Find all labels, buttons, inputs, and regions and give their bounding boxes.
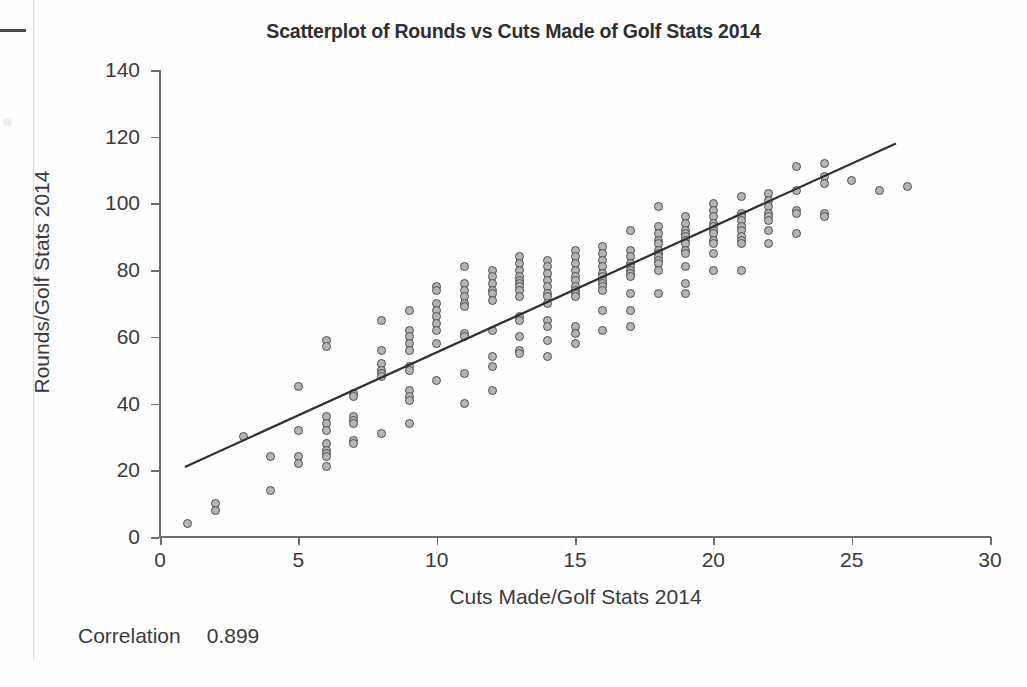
data-point bbox=[875, 186, 884, 195]
data-point bbox=[432, 339, 441, 348]
data-point bbox=[543, 299, 552, 308]
x-tick-label: 10 bbox=[425, 548, 448, 572]
y-tick bbox=[151, 270, 159, 272]
data-point bbox=[681, 262, 690, 271]
data-point bbox=[349, 439, 358, 448]
data-point bbox=[432, 326, 441, 335]
data-point bbox=[266, 452, 275, 461]
x-tick bbox=[437, 537, 439, 545]
data-point bbox=[322, 342, 331, 351]
x-tick-label: 0 bbox=[154, 548, 166, 572]
data-point bbox=[405, 346, 414, 355]
y-tick-label: 100 bbox=[0, 191, 140, 215]
y-tick bbox=[151, 337, 159, 339]
x-tick bbox=[852, 537, 854, 545]
data-point bbox=[543, 336, 552, 345]
data-point bbox=[515, 292, 524, 301]
x-tick-label: 15 bbox=[563, 548, 586, 572]
data-point bbox=[515, 349, 524, 358]
data-point bbox=[792, 229, 801, 238]
data-point bbox=[488, 352, 497, 361]
y-tick-label: 0 bbox=[0, 525, 140, 549]
data-point bbox=[626, 226, 635, 235]
x-tick-label: 5 bbox=[292, 548, 304, 572]
data-point bbox=[571, 292, 580, 301]
data-point bbox=[571, 339, 580, 348]
data-point bbox=[377, 429, 386, 438]
data-point bbox=[460, 399, 469, 408]
data-point bbox=[820, 179, 829, 188]
data-point bbox=[626, 322, 635, 331]
y-tick-label: 140 bbox=[0, 58, 140, 82]
x-tick-label: 20 bbox=[702, 548, 725, 572]
data-point bbox=[405, 306, 414, 315]
data-point bbox=[543, 322, 552, 331]
correlation-value: 0.899 bbox=[207, 624, 260, 647]
data-point bbox=[432, 376, 441, 385]
data-point bbox=[820, 159, 829, 168]
regression-line bbox=[160, 70, 990, 537]
data-point bbox=[709, 266, 718, 275]
data-point bbox=[737, 239, 746, 248]
y-tick bbox=[151, 404, 159, 406]
y-tick bbox=[151, 137, 159, 139]
data-point bbox=[709, 249, 718, 258]
y-tick-label: 20 bbox=[0, 458, 140, 482]
data-point bbox=[377, 372, 386, 381]
data-point bbox=[792, 209, 801, 218]
y-tick-label: 120 bbox=[0, 125, 140, 149]
data-point bbox=[322, 452, 331, 461]
data-point bbox=[626, 306, 635, 315]
x-tick bbox=[575, 537, 577, 545]
data-point bbox=[488, 296, 497, 305]
data-point bbox=[294, 382, 303, 391]
data-point bbox=[598, 326, 607, 335]
data-point bbox=[626, 289, 635, 298]
data-point bbox=[737, 192, 746, 201]
x-tick bbox=[298, 537, 300, 545]
x-tick bbox=[160, 537, 162, 545]
data-point bbox=[737, 266, 746, 275]
y-axis-title: Rounds/Golf Stats 2014 bbox=[30, 72, 54, 492]
data-point bbox=[764, 239, 773, 248]
data-point bbox=[322, 462, 331, 471]
data-point bbox=[349, 392, 358, 401]
data-point bbox=[349, 419, 358, 428]
data-point bbox=[432, 286, 441, 295]
data-point bbox=[294, 459, 303, 468]
data-point bbox=[764, 226, 773, 235]
x-tick-label: 30 bbox=[978, 548, 1001, 572]
x-tick bbox=[990, 537, 992, 545]
data-point bbox=[820, 212, 829, 221]
data-point bbox=[460, 302, 469, 311]
data-point bbox=[654, 202, 663, 211]
scanned-page: Scatterplot of Rounds vs Cuts Made of Go… bbox=[0, 0, 1027, 687]
data-point bbox=[598, 286, 607, 295]
data-point bbox=[488, 386, 497, 395]
data-point bbox=[515, 316, 524, 325]
y-tick bbox=[151, 470, 159, 472]
data-point bbox=[792, 186, 801, 195]
data-point bbox=[792, 162, 801, 171]
data-point bbox=[903, 182, 912, 191]
data-point bbox=[322, 426, 331, 435]
chart-title: Scatterplot of Rounds vs Cuts Made of Go… bbox=[0, 20, 1027, 43]
correlation-label: Correlation bbox=[78, 624, 181, 647]
data-point bbox=[266, 486, 275, 495]
data-point bbox=[460, 332, 469, 341]
data-point bbox=[598, 306, 607, 315]
data-point bbox=[681, 279, 690, 288]
y-tick-label: 40 bbox=[0, 392, 140, 416]
data-point bbox=[239, 432, 248, 441]
correlation-annotation: Correlation0.899 bbox=[78, 624, 259, 648]
x-axis-title: Cuts Made/Golf Stats 2014 bbox=[160, 585, 991, 609]
data-point bbox=[405, 396, 414, 405]
data-point bbox=[626, 272, 635, 281]
data-point bbox=[377, 316, 386, 325]
data-point bbox=[488, 326, 497, 335]
data-point bbox=[405, 419, 414, 428]
x-tick-label: 25 bbox=[840, 548, 863, 572]
data-point bbox=[460, 262, 469, 271]
data-point bbox=[709, 239, 718, 248]
y-tick bbox=[151, 203, 159, 205]
